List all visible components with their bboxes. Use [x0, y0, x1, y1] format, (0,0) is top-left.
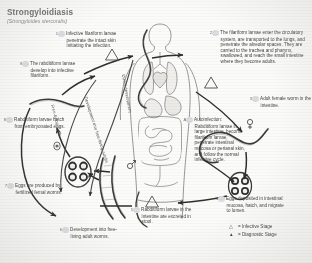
diagnostic-stage-triangle-icon: ▲	[229, 231, 238, 239]
free-living-adult-worms	[100, 156, 125, 219]
step-develop-into-filariform: 9The rabditiform larvae develop into inf…	[22, 61, 85, 79]
step-eggs-produced: 7Eggs are produced by fertilized femal w…	[7, 183, 68, 195]
egg-cluster-left	[65, 157, 91, 187]
legend-label-infective: = Infective Stage	[238, 223, 272, 231]
page-subtitle: (Strongyloides stercoralis)	[7, 18, 67, 24]
step-text: Eggs deposited in intestinal mucosa, hat…	[226, 196, 284, 213]
legend-row-infective: △ = Infective Stage	[229, 223, 277, 231]
page-title: Strongyloidiasis	[7, 8, 73, 17]
step-text: The rabditiform larvae develop into infe…	[30, 61, 75, 78]
step-number-badge: 3	[252, 96, 259, 103]
step-number-badge: 5	[133, 207, 140, 214]
step-number-badge: 8	[6, 117, 13, 124]
step-adult-female: 3Adult female worm in the intestine.	[252, 96, 312, 108]
step-infective-penetrate: 1Infective filariform larvae penetrate t…	[58, 31, 129, 49]
internal-organs	[139, 52, 182, 187]
step-text: Autoinfection: Rabditiform larvae in lar…	[194, 117, 245, 162]
step-number-badge: 1	[58, 31, 65, 38]
infective-stage-triangle-icon: △	[229, 223, 238, 231]
step-text: Eggs are produced by fertilized femal wo…	[15, 183, 62, 195]
egg-small-left	[54, 142, 60, 150]
step-development-free-living: 6Development into free-living adult worm…	[62, 227, 123, 239]
rabditiform-larva-hatch	[30, 99, 84, 106]
step-autoinfection: AAutoinfection: Rabditiform larvae in la…	[186, 117, 247, 163]
step-text: Adult female worm in the intestine.	[260, 96, 311, 108]
step-number-badge: 2	[212, 30, 219, 37]
step-text: Infective filariform larvae penetrate th…	[66, 31, 116, 48]
step-filariform-circulatory: 2The filariform larvae enter the circula…	[212, 30, 312, 65]
step-eggs-deposited: 4Eggs deposited in intestinal mucosa, ha…	[218, 196, 287, 214]
step-number-badge: 6	[62, 227, 69, 234]
life-cycle-diagram-page: Strongyloidiasis (Strongyloides stercora…	[0, 0, 312, 263]
step-number-badge: 4	[218, 196, 225, 203]
legend-label-diagnostic: = Diagnostic Stage	[238, 231, 277, 239]
legend-row-diagnostic: ▲ = Diagnostic Stage	[229, 231, 277, 239]
step-number-badge: 7	[7, 183, 14, 190]
step-text: Rabditiform larvae in the intestine are …	[141, 207, 191, 224]
step-number-badge: A	[186, 117, 193, 124]
step-text: Development into free-living adult worms…	[70, 227, 117, 239]
step-text: The filariform larvae enter the circulat…	[220, 30, 305, 64]
step-number-badge: 9	[22, 61, 29, 68]
legend: △ = Infective Stage ▲ = Diagnostic Stage	[229, 223, 277, 239]
step-rabditiform-excreted: 5Rabditiform larvae in the intestine are…	[133, 207, 198, 225]
step-rabditiform-hatch: 8Rabditiform larvae hatch from embryonat…	[6, 117, 73, 129]
